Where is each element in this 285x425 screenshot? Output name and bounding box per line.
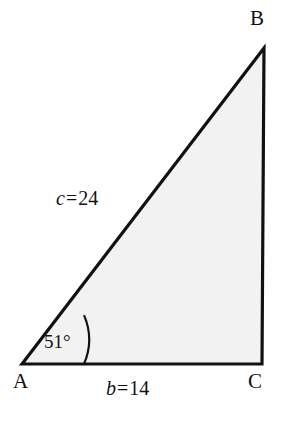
vertex-label-c: C bbox=[248, 371, 262, 392]
side-c-value: 24 bbox=[78, 187, 98, 209]
side-c-variable: c bbox=[56, 187, 65, 209]
side-b-variable: b bbox=[106, 377, 116, 399]
triangle-figure: A B C c=24 b=14 51° bbox=[0, 0, 285, 425]
side-c-equals: = bbox=[65, 187, 78, 209]
vertex-label-b: B bbox=[250, 8, 264, 29]
side-b-value: 14 bbox=[129, 377, 149, 399]
side-label-b: b=14 bbox=[106, 378, 149, 398]
vertex-label-a: A bbox=[13, 371, 28, 392]
angle-label-a: 51° bbox=[44, 332, 71, 351]
triangle-graphic bbox=[0, 0, 285, 425]
side-label-c: c=24 bbox=[56, 188, 98, 208]
side-b-equals: = bbox=[116, 377, 129, 399]
